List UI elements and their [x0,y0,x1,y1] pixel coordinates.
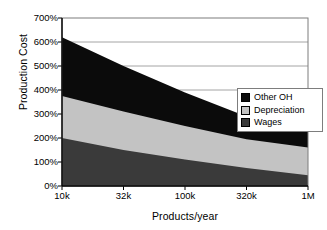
x-tick-label-320k: 320k [236,190,257,201]
legend-swatch-icon [241,106,250,115]
legend-label: Depreciation [254,106,305,115]
legend-swatch-icon [241,93,250,102]
y-tick-label-0: 0% [12,180,58,191]
x-tick-label-1M: 1M [301,190,314,201]
x-axis-title: Products/year [62,210,308,222]
y-tick-label-100: 100% [12,156,58,167]
x-tick-label-100k: 100k [175,190,196,201]
chart-legend: Other OHDepreciationWages [237,88,323,132]
y-axis-title: Production Cost [17,2,29,142]
production-cost-chart: 0%100%200%300%400%500%600%700% 10k32k100… [0,0,327,230]
legend-label: Wages [254,118,282,127]
legend-swatch-icon [241,118,250,127]
legend-item-depreciation[interactable]: Depreciation [241,104,320,116]
y-axis-tick-labels: 0%100%200%300%400%500%600%700% [6,0,58,230]
legend-item-wages[interactable]: Wages [241,117,320,129]
legend-item-other-oh[interactable]: Other OH [241,92,320,104]
legend-label: Other OH [254,93,293,102]
chart-screenshot: 0%100%200%300%400%500%600%700% 10k32k100… [0,0,327,230]
x-tick-label-32k: 32k [116,190,131,201]
x-tick-label-10k: 10k [54,190,69,201]
